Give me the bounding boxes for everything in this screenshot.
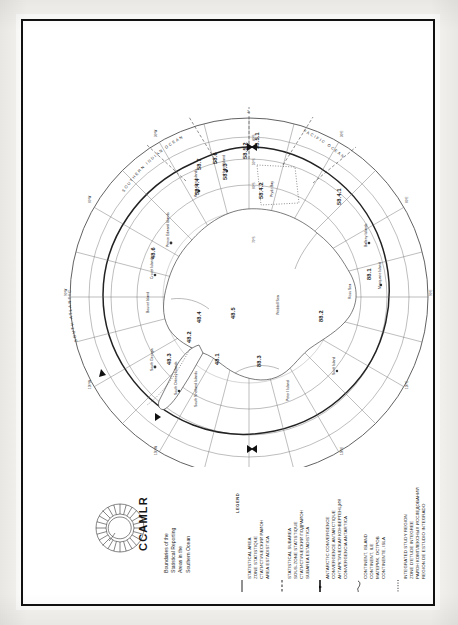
legend-symbol-solid-line [241, 579, 255, 593]
meridian-label: 90°W [64, 288, 68, 296]
parallel-label: 50°S [252, 158, 256, 165]
title-line: Statistical Reporting [170, 528, 177, 573]
legend-line: REGION DE ESTUDIO INTEGRADO [421, 487, 427, 579]
organisation-name: CCAMLR [137, 496, 149, 551]
antarctic-map: 48.1 48.2 48.3 48.4 48.5 48.6 58.4.1 58.… [51, 47, 447, 467]
area-label: 58.6 [212, 152, 218, 164]
feature-label: South Shetland Islands [194, 371, 198, 407]
area-label: 58.7 [196, 158, 202, 170]
area-label: 58.5.2 [242, 142, 248, 159]
legend-symbol-landmass [357, 579, 371, 593]
feature-label: Scott Island [332, 357, 336, 375]
feature-label: Macquarie Island [378, 262, 382, 289]
legend-line: SUBAREA ESTADISTICA [305, 510, 311, 579]
feature-label: Ross Sea [348, 284, 352, 299]
area-label: 48.5 [230, 307, 236, 319]
feature-label: Prince Edward Islands [166, 212, 170, 247]
feature-label: South Georgia [150, 348, 154, 371]
area-label: 48.4 [196, 311, 202, 323]
meridian-label: 120°W [88, 380, 92, 389]
map-border-frame: 48.1 48.2 48.3 48.4 48.5 48.6 58.4.1 58.… [21, 19, 435, 606]
area-label: 48.2 [186, 331, 192, 343]
ocean-label: SOUTH ATLANTIC [67, 289, 79, 343]
feature-label: Peter I Island [286, 380, 290, 401]
meridian-label: 90°E [429, 289, 433, 296]
area-label: 88.3 [256, 355, 262, 367]
legend-entry-continent-island: CONTINENT, ISLAND CONTINENT, ILE МАТЕРИК… [363, 534, 387, 579]
scanned-map-page: 48.1 48.2 48.3 48.4 48.5 48.6 58.4.1 58.… [0, 0, 458, 625]
feature-label: Heard Island [222, 155, 226, 175]
feature-label: Prydz Bay [270, 181, 274, 197]
meridian-label: 60°E [405, 196, 409, 203]
meridian-label: 30°W [154, 129, 158, 137]
legend-line: AREA ESTADISTICA [265, 520, 271, 579]
area-label: 88.1 [366, 268, 372, 280]
feature-label: Weddell Sea [276, 295, 280, 315]
title-and-legend-block: CCAMLR Boundaries of the Statistical Rep… [53, 473, 433, 623]
svg-text:SOUTH ATLANTIC: SOUTH ATLANTIC [67, 289, 79, 343]
legend-entry-statistical-area: STATISTICAL AREA ZONE STATISTIQUE СТАТИС… [247, 520, 271, 579]
area-label: 58.4.1 [336, 188, 342, 205]
parallel-label: 40°S [252, 134, 256, 141]
meridian-label: 0° [247, 109, 251, 113]
area-label: 48.1 [214, 353, 220, 365]
parallel-label: 60°S [252, 182, 256, 189]
legend-symbol-convergence-line [319, 579, 333, 593]
legend-symbol-dotted-line [397, 579, 411, 593]
title-line: Southern Ocean [185, 528, 192, 573]
legend-line: CONVERGENCIA ANTARTICA [343, 499, 349, 579]
title-line: Areas in the [177, 528, 184, 573]
feature-label: South Orkney Islands [174, 361, 178, 395]
legend-entry-antarctic-convergence: ANTARCTIC CONVERGENCE CONVERGENCE ANTARC… [325, 499, 349, 579]
legend-line: CONTINENTE, ISLA [381, 534, 387, 579]
meridian-label: 30°E [340, 130, 344, 137]
parallel-label: 70°S [252, 236, 256, 243]
legend-entry-statistical-subarea: STATISTICAL SUBAREA SOUS-ZONE STATISTIQU… [287, 510, 311, 579]
legend-symbol-dashed-line [281, 579, 295, 593]
feature-label: Balleny Islands [364, 223, 368, 247]
meridian-label: 60°W [88, 195, 92, 203]
legend-entry-integrated-study-region: INTEGRATED STUDY REGION ZONE D'ETUDE INT… [403, 487, 427, 579]
meridian-label: 120°E [405, 381, 409, 389]
area-label: 58.4.2 [258, 182, 264, 199]
meridian-label: 150°W [154, 446, 158, 455]
title-line: Boundaries of the [163, 528, 170, 573]
feature-label: Bouvet Island [146, 292, 150, 313]
feature-label: Kerguelen Islands [194, 169, 198, 197]
area-label: 48.3 [166, 353, 172, 365]
area-label: 88.2 [318, 310, 324, 322]
feature-label: Crozet Islands [150, 256, 154, 279]
meridian-label: 150°E [340, 447, 344, 455]
map-title: Boundaries of the Statistical Reporting … [163, 528, 192, 573]
legend-heading: LEGEND [235, 493, 240, 513]
